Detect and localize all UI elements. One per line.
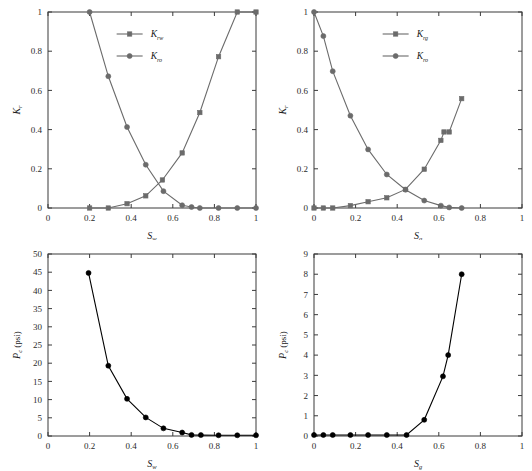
- plot-frame: [48, 254, 256, 436]
- y-tick-label: 0: [304, 203, 309, 213]
- data-point: [442, 130, 446, 134]
- data-point: [348, 432, 353, 437]
- data-point: [180, 203, 185, 208]
- x-tick-label: 1: [254, 441, 259, 451]
- y-tick-label: 0: [38, 431, 43, 441]
- data-point: [403, 187, 408, 192]
- y-tick-label: 35: [33, 304, 43, 314]
- data-point: [438, 203, 443, 208]
- y-tick-label: 3: [304, 371, 309, 381]
- data-point: [312, 206, 316, 210]
- data-point: [459, 272, 464, 277]
- y-tick-label: 6: [304, 310, 309, 320]
- legend-marker: [127, 32, 131, 36]
- data-point: [348, 113, 353, 118]
- x-tick-label: 1: [520, 213, 525, 223]
- data-point: [180, 430, 185, 435]
- data-point: [459, 206, 464, 211]
- data-point: [330, 69, 335, 74]
- x-tick-label: 0.2: [350, 213, 361, 223]
- data-point: [385, 196, 389, 200]
- y-axis-label: Kr: [277, 105, 289, 116]
- data-point: [125, 396, 130, 401]
- y-tick-label: 30: [33, 322, 43, 332]
- series-line: [90, 12, 256, 208]
- x-tick-label: 0.6: [433, 213, 445, 223]
- y-tick-label: 10: [33, 395, 43, 405]
- legend-marker: [393, 32, 397, 36]
- data-point: [439, 138, 443, 142]
- data-point: [446, 353, 451, 358]
- x-tick-label: 0.4: [392, 441, 404, 451]
- chart-water-capillary-pressure: 00.20.40.60.8105101520253035404550SwPc (…: [0, 240, 266, 471]
- y-tick-label: 50: [33, 249, 43, 259]
- data-point: [189, 205, 194, 210]
- x-tick-label: 0.6: [167, 441, 179, 451]
- plot-frame: [314, 12, 522, 208]
- y-tick-label: 40: [33, 286, 43, 296]
- data-point: [459, 96, 463, 100]
- data-point: [321, 432, 326, 437]
- y-tick-label: 45: [33, 267, 43, 277]
- y-tick-label: 2: [304, 391, 309, 401]
- x-tick-label: 0.6: [433, 441, 445, 451]
- y-tick-label: 5: [38, 413, 43, 423]
- x-tick-label: 0.2: [84, 441, 95, 451]
- data-point: [160, 178, 164, 182]
- chart-gas-oil-relative-permeability: 00.20.40.60.8100.20.40.60.81SgKrKrgKro: [266, 0, 532, 240]
- y-tick-label: 0.4: [31, 125, 43, 135]
- x-tick-label: 0.4: [126, 213, 138, 223]
- data-point: [144, 194, 148, 198]
- x-axis-label: Sg: [414, 230, 423, 240]
- data-point: [348, 203, 352, 207]
- data-point: [87, 10, 92, 15]
- series-group: [312, 10, 465, 211]
- y-tick-label: 0.6: [31, 86, 43, 96]
- legend-label: Krw: [150, 29, 164, 40]
- chart-water-oil-relative-permeability: 00.20.40.60.8100.20.40.60.81SwKrKrwKro: [0, 0, 266, 240]
- data-point: [235, 10, 239, 14]
- y-tick-label: 0.8: [297, 46, 309, 56]
- data-point: [216, 206, 221, 211]
- x-tick-label: 0.4: [392, 213, 404, 223]
- y-axis-label: Pc (psi): [11, 331, 23, 360]
- panel-water-oil-relative-permeability: 00.20.40.60.8100.20.40.60.81SwKrKrwKro: [0, 0, 266, 240]
- data-point: [254, 206, 259, 211]
- data-point: [366, 200, 370, 204]
- data-point: [197, 206, 202, 211]
- data-point: [254, 433, 259, 438]
- x-tick-label: 0.8: [475, 213, 487, 223]
- data-point: [106, 206, 110, 210]
- x-tick-label: 0.8: [475, 441, 487, 451]
- series-group: [86, 270, 258, 437]
- legend-label: Kro: [416, 51, 428, 62]
- data-point: [422, 417, 427, 422]
- data-point: [235, 206, 240, 211]
- x-axis-label: Sw: [147, 230, 157, 240]
- data-point: [447, 205, 452, 210]
- y-tick-label: 9: [304, 249, 309, 259]
- y-axis-label: Pc (psi): [277, 331, 289, 360]
- y-tick-label: 0.8: [31, 46, 43, 56]
- series-group: [312, 272, 465, 438]
- data-point: [312, 10, 317, 15]
- x-tick-label: 0: [312, 213, 317, 223]
- series-line: [89, 273, 256, 435]
- data-point: [330, 432, 335, 437]
- legend-marker: [393, 54, 398, 59]
- data-point: [366, 147, 371, 152]
- data-point: [384, 432, 389, 437]
- x-tick-label: 0.8: [209, 213, 221, 223]
- y-tick-label: 5: [304, 330, 309, 340]
- data-point: [216, 433, 221, 438]
- y-tick-label: 0.2: [31, 164, 42, 174]
- data-point: [366, 432, 371, 437]
- chart-gas-capillary-pressure: 00.20.40.60.810123456789SgPc (psi): [266, 240, 532, 471]
- x-tick-label: 0: [312, 441, 317, 451]
- series-line: [90, 12, 256, 208]
- data-point: [447, 130, 451, 134]
- data-point: [106, 74, 111, 79]
- y-axis-label: Kr: [11, 105, 23, 116]
- series-line: [314, 99, 462, 208]
- data-point: [384, 172, 389, 177]
